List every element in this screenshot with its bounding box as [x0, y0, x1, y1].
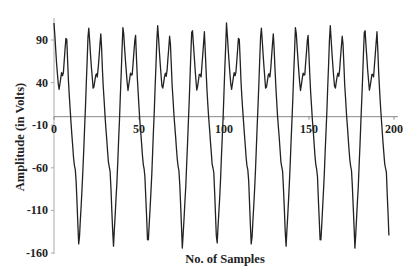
- x-axis-title: No. of Samples: [185, 252, 265, 266]
- x-tick-label: 0: [51, 122, 57, 136]
- y-tick-label: -110: [27, 203, 48, 217]
- y-axis-ticks: 9040-10-60-110-160: [26, 33, 54, 260]
- x-tick-label: 200: [385, 122, 403, 136]
- x-tick-label: 150: [300, 122, 318, 136]
- y-tick-label: 40: [36, 76, 48, 90]
- y-tick-label: -60: [32, 161, 48, 175]
- amplitude-chart: 9040-10-60-110-160 050100150200 No. of S…: [0, 0, 418, 279]
- y-axis-title: Amplitude (in Volts): [13, 83, 27, 191]
- y-tick-label: 90: [36, 33, 48, 47]
- y-tick-label: -10: [32, 118, 48, 132]
- x-tick-label: 50: [133, 122, 145, 136]
- x-axis-ticks: 050100150200: [51, 117, 403, 136]
- y-tick-label: -160: [26, 246, 48, 260]
- plot-area: 9040-10-60-110-160 050100150200: [26, 18, 403, 260]
- x-tick-label: 100: [215, 122, 233, 136]
